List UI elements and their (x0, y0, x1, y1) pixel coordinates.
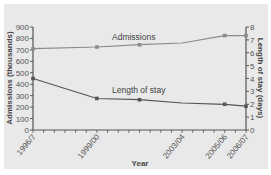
y-tick-label: 600 (16, 57, 30, 66)
y-tick-label: 500 (16, 69, 30, 78)
x-tick-label: 2003/04 (161, 132, 187, 160)
y-tick-label: 800 (16, 34, 30, 43)
y-tick-label: 300 (16, 92, 30, 101)
data-point-marker (31, 77, 35, 81)
y2-tick-label: 4 (250, 75, 255, 84)
x-tick-label: 1999/00 (76, 132, 102, 160)
data-point-marker (138, 43, 142, 47)
y-tick-label: 400 (16, 80, 30, 89)
data-point-marker (223, 34, 227, 38)
y-tick-label: 100 (16, 115, 30, 124)
x-tick-label: 1996/7 (15, 132, 38, 157)
y2-tick-label: 0 (250, 126, 255, 135)
y-tick-label: 700 (16, 46, 30, 55)
x-tick-label: 2006/07 (225, 132, 251, 160)
data-point-marker (244, 104, 248, 108)
y2-tick-label: 2 (250, 100, 255, 109)
y2-tick-label: 7 (250, 36, 255, 45)
length-of-stay-series-label: Length of stay (112, 85, 166, 95)
y-tick-label: 900 (16, 23, 30, 32)
y2-tick-label: 6 (250, 49, 255, 58)
y2-tick-label: 5 (250, 62, 255, 71)
y2-tick-label: 3 (250, 87, 255, 96)
data-point-marker (138, 98, 142, 102)
line-chart: 0100200300400500600700800900012345678199… (0, 0, 271, 175)
y-axis-title: Admissions (thousands) (5, 31, 14, 125)
data-point-marker (95, 97, 99, 101)
data-point-marker (95, 45, 99, 49)
admissions-series-label: Admissions (112, 32, 155, 42)
series-layer (31, 34, 248, 108)
y-tick-label: 200 (16, 103, 30, 112)
x-axis-title: Year (132, 159, 149, 168)
y2-axis-title: Length of stay (days) (256, 38, 265, 119)
data-point-marker (31, 47, 35, 51)
y2-tick-label: 8 (250, 23, 255, 32)
data-point-marker (223, 102, 227, 106)
y2-tick-label: 1 (250, 113, 255, 122)
data-point-marker (244, 34, 248, 38)
